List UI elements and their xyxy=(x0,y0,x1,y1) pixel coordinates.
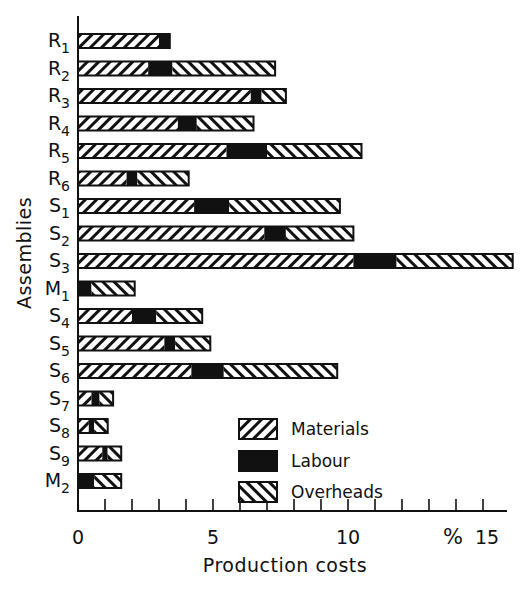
x-unit-label: % xyxy=(443,525,463,549)
bar-segment-materials xyxy=(78,117,178,131)
category-label: S4 xyxy=(49,304,70,331)
bar-row xyxy=(78,89,286,103)
bar-segment-materials xyxy=(78,62,148,76)
category-label: S9 xyxy=(49,442,70,469)
bar-segment-labour xyxy=(92,392,100,406)
bar-segment-materials xyxy=(78,254,353,268)
category-label: S7 xyxy=(49,387,70,414)
bar-segment-labour xyxy=(194,199,229,213)
bar-row xyxy=(78,392,113,406)
category-label: R5 xyxy=(48,139,70,166)
bar-row xyxy=(78,419,108,433)
bar-segment-overheads xyxy=(197,117,254,131)
bar-segment-labour xyxy=(132,309,156,323)
bar-segment-overheads xyxy=(94,474,121,488)
category-label: S5 xyxy=(49,332,70,359)
bar-segment-overheads xyxy=(156,309,202,323)
category-label: R6 xyxy=(48,167,70,194)
bar-segment-materials xyxy=(78,172,127,186)
bar-segment-labour xyxy=(148,62,172,76)
bar-segment-overheads xyxy=(108,447,122,461)
x-tick-label: 5 xyxy=(207,526,219,548)
bar-segment-materials xyxy=(78,227,264,241)
stacked-bar-chart: R1R2R3R4R5R6S1S2S3M1S4S5S6S7S8S9M2 05101… xyxy=(0,0,523,592)
y-tick-labels: R1R2R3R4R5R6S1S2S3M1S4S5S6S7S8S9M2 xyxy=(45,29,70,496)
bar-segment-labour xyxy=(264,227,286,241)
bar-segment-labour xyxy=(127,172,138,186)
bar-segment-overheads xyxy=(262,89,286,103)
bar-segment-overheads xyxy=(286,227,354,241)
x-tick-label: 10 xyxy=(336,526,360,548)
bar-row xyxy=(78,144,362,158)
bar-segment-labour xyxy=(178,117,197,131)
bar-row xyxy=(78,34,170,48)
category-label: R3 xyxy=(48,84,70,111)
legend-label: Labour xyxy=(291,451,350,471)
x-tick-label: 0 xyxy=(72,526,84,548)
legend-swatch xyxy=(239,482,277,502)
bar-segment-labour xyxy=(164,337,175,351)
bar-segment-overheads xyxy=(397,254,513,268)
bar-row xyxy=(78,309,202,323)
y-axis-title: Assemblies xyxy=(13,197,35,309)
category-label: R4 xyxy=(48,112,70,139)
legend: MaterialsLabourOverheads xyxy=(239,419,383,502)
bar-row xyxy=(78,282,135,296)
category-label: R2 xyxy=(48,57,70,84)
bar-segment-materials xyxy=(78,144,227,158)
bar-segment-materials xyxy=(78,309,132,323)
bar-segment-labour xyxy=(102,447,107,461)
bar-row xyxy=(78,474,121,488)
bar-segment-materials xyxy=(78,392,92,406)
legend-label: Materials xyxy=(291,419,369,439)
bar-segment-materials xyxy=(78,419,89,433)
category-label: M1 xyxy=(45,277,70,304)
bar-segment-overheads xyxy=(100,392,114,406)
legend-item-materials: Materials xyxy=(239,419,369,439)
category-label: S2 xyxy=(49,222,70,249)
bar-segment-overheads xyxy=(173,62,276,76)
legend-item-overheads: Overheads xyxy=(239,482,383,502)
category-label: S8 xyxy=(49,414,70,441)
category-label: M2 xyxy=(45,469,70,496)
legend-swatch xyxy=(239,451,277,471)
bar-row xyxy=(78,364,337,378)
bar-segment-overheads xyxy=(92,282,135,296)
category-label: S6 xyxy=(49,359,70,386)
bar-segment-materials xyxy=(78,364,191,378)
x-axis-title: Production costs xyxy=(203,554,367,576)
legend-swatch xyxy=(239,419,277,439)
bar-segment-labour xyxy=(353,254,396,268)
bar-row xyxy=(78,199,340,213)
bar-segment-labour xyxy=(251,89,262,103)
bar-row xyxy=(78,117,254,131)
bar-row xyxy=(78,62,275,76)
bar-segment-labour xyxy=(89,419,94,433)
bar-segment-materials xyxy=(78,199,194,213)
bar-segment-labour xyxy=(227,144,268,158)
x-tick-labels: 051015 xyxy=(72,526,499,548)
bar-segment-overheads xyxy=(137,172,188,186)
bar-row xyxy=(78,172,189,186)
bar-segment-materials xyxy=(78,89,251,103)
bar-row xyxy=(78,337,210,351)
category-label: S1 xyxy=(49,194,70,221)
bar-segment-overheads xyxy=(267,144,362,158)
bar-segment-overheads xyxy=(175,337,210,351)
bar-segment-labour xyxy=(159,34,170,48)
bar-row xyxy=(78,254,513,268)
category-label: S3 xyxy=(49,249,70,276)
bar-segment-labour xyxy=(78,282,92,296)
category-label: R1 xyxy=(48,29,70,56)
bar-segment-overheads xyxy=(229,199,340,213)
bar-segment-materials xyxy=(78,447,102,461)
x-tick-label: 15 xyxy=(475,526,499,548)
bar-segment-materials xyxy=(78,337,164,351)
bar-row xyxy=(78,227,353,241)
bar-segment-overheads xyxy=(224,364,337,378)
bar-segment-materials xyxy=(78,34,159,48)
bar-segment-labour xyxy=(191,364,223,378)
legend-item-labour: Labour xyxy=(239,451,350,471)
bar-segment-overheads xyxy=(94,419,108,433)
bar-row xyxy=(78,447,121,461)
